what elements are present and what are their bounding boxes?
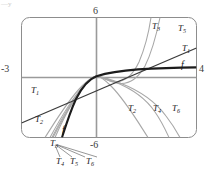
label-T1-right-sub: 1 bbox=[187, 48, 190, 54]
label-T4-below-sub: 4 bbox=[61, 161, 64, 167]
label-T6-below-sub: 6 bbox=[91, 161, 94, 167]
label-T5-top-sub: 5 bbox=[183, 28, 186, 34]
figure-container: —y bbox=[0, 0, 215, 174]
y-axis-bottom-tick-label: -6 bbox=[90, 140, 98, 150]
label-T5-below-sub: 5 bbox=[75, 161, 78, 167]
label-T2-left: T2 bbox=[35, 115, 43, 125]
label-T2-bottom-right: T2 bbox=[128, 104, 136, 114]
label-T4-below: T4 bbox=[56, 157, 64, 167]
label-T5-below: T5 bbox=[70, 157, 78, 167]
label-T5-top: T5 bbox=[178, 24, 186, 34]
x-axis-left-tick-label: -3 bbox=[1, 64, 9, 74]
label-T4-bottom-right: T4 bbox=[153, 104, 161, 114]
label-f-right-base: f bbox=[181, 59, 184, 70]
label-T2-br-sub: 2 bbox=[133, 108, 136, 114]
label-T3-top: T3 bbox=[152, 22, 160, 32]
label-T1-left: T1 bbox=[31, 86, 39, 96]
label-T6-below: T6 bbox=[86, 157, 94, 167]
x-axis-right-tick-label: 4 bbox=[199, 64, 204, 74]
label-T6-br-sub: 6 bbox=[177, 108, 180, 114]
label-T1-left-sub: 1 bbox=[36, 90, 39, 96]
label-T1-right: T1 bbox=[182, 44, 190, 54]
label-T2-left-sub: 2 bbox=[40, 119, 43, 125]
label-T3-below-sub: 3 bbox=[55, 143, 58, 149]
label-f-bottom: f bbox=[62, 125, 65, 135]
label-T3-below: T3 bbox=[50, 139, 58, 149]
label-T4-br-sub: 4 bbox=[158, 108, 161, 114]
label-T3-top-sub: 3 bbox=[157, 26, 160, 32]
y-axis-top-tick-label: 6 bbox=[93, 6, 98, 16]
label-f-right: f bbox=[181, 60, 184, 70]
label-f-bottom-base: f bbox=[62, 124, 65, 135]
label-T6-bottom-right: T6 bbox=[172, 104, 180, 114]
